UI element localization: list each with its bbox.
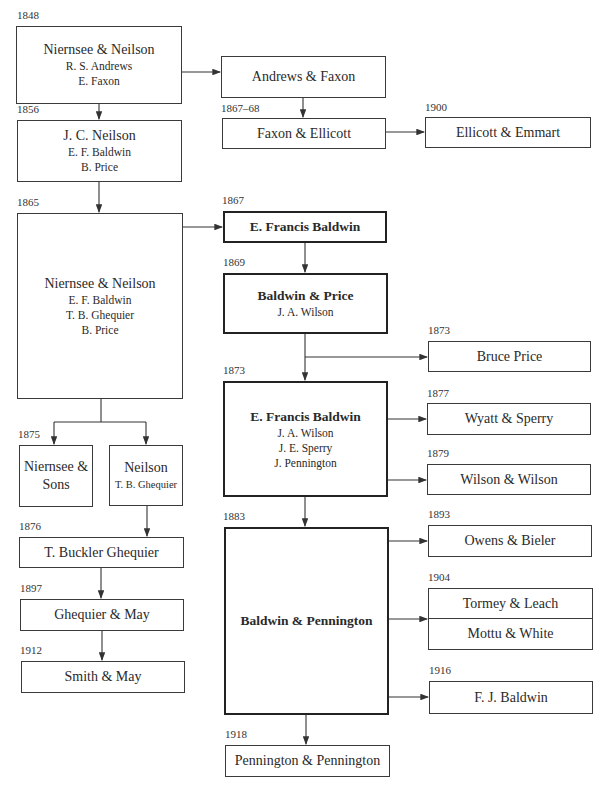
member: T. B. Ghequier <box>66 308 134 323</box>
year-label: 1883 <box>223 510 245 522</box>
node-title: E. Francis Baldwin <box>250 408 361 426</box>
member: E. Faxon <box>78 74 120 89</box>
node-title: T. Buckler Ghequier <box>44 544 158 562</box>
node-fj-baldwin: F. J. Baldwin <box>429 681 593 714</box>
node-title: Owens & Bieler <box>465 532 556 550</box>
member: J. E. Sperry <box>279 441 333 456</box>
node-title: Smith & May <box>64 668 141 686</box>
node-wyatt-sperry: Wyatt & Sperry <box>427 403 591 435</box>
node-title: J. C. Neilson <box>63 127 135 145</box>
node-title: Ghequier & May <box>54 606 150 624</box>
node-title-line: Sons <box>42 476 69 494</box>
node-title: F. J. Baldwin <box>474 689 548 707</box>
year-label: 1893 <box>428 508 450 520</box>
node-title: Faxon & Ellicott <box>257 125 351 143</box>
node-title: Baldwin & Pennington <box>240 612 372 630</box>
node-title: Niernsee & Neilson <box>43 41 154 59</box>
year-label: 1912 <box>20 644 42 656</box>
node-mottu-white: Mottu & White <box>429 619 592 649</box>
node-e-francis-baldwin-1873: E. Francis Baldwin J. A. Wilson J. E. Sp… <box>223 381 388 497</box>
year-label: 1900 <box>425 101 447 113</box>
node-ellicott-emmart: Ellicott & Emmart <box>425 117 591 148</box>
node-owens-bieler: Owens & Bieler <box>428 525 592 557</box>
node-title: Wyatt & Sperry <box>465 410 554 428</box>
year-label: 1848 <box>17 9 39 21</box>
year-label: 1856 <box>17 103 39 115</box>
member: B. Price <box>81 160 118 175</box>
node-smith-may: Smith & May <box>21 661 185 693</box>
node-jc-neilson: J. C. Neilson E. F. Baldwin B. Price <box>17 120 182 182</box>
node-baldwin-pennington: Baldwin & Pennington <box>224 527 389 715</box>
member: J. Pennington <box>274 456 337 471</box>
node-niernsee-neilson-1848: Niernsee & Neilson R. S. Andrews E. Faxo… <box>16 26 182 104</box>
node-ghequier-may: Ghequier & May <box>20 599 184 631</box>
year-label: 1865 <box>17 196 39 208</box>
year-label: 1879 <box>427 447 449 459</box>
member: B. Price <box>81 323 118 338</box>
year-label: 1916 <box>429 664 451 676</box>
member: R. S. Andrews <box>66 59 132 74</box>
member: J. A. Wilson <box>277 426 333 441</box>
node-title: E. Francis Baldwin <box>250 218 361 236</box>
year-label: 1875 <box>18 428 40 440</box>
year-label: 1873 <box>428 324 450 336</box>
node-andrews-faxon: Andrews & Faxon <box>221 56 386 98</box>
node-title-line: Niernsee & <box>24 458 88 476</box>
node-title: Baldwin & Price <box>258 287 354 305</box>
node-title: Neilson <box>124 459 168 477</box>
year-label: 1876 <box>19 520 41 532</box>
year-label: 1897 <box>20 582 42 594</box>
node-e-francis-baldwin-1867: E. Francis Baldwin <box>223 211 387 243</box>
node-title: Bruce Price <box>477 348 543 366</box>
node-title: Wilson & Wilson <box>460 471 557 489</box>
node-tormey-mottu: Tormey & Leach Mottu & White <box>428 588 593 650</box>
node-neilson-1875: Neilson T. B. Ghequier <box>109 445 183 506</box>
node-pennington-pennington: Pennington & Pennington <box>225 745 390 777</box>
member: J. A. Wilson <box>277 305 333 320</box>
node-title: Ellicott & Emmart <box>456 124 560 142</box>
year-label: 1867–68 <box>221 102 260 114</box>
node-title: Niernsee & Neilson <box>44 275 155 293</box>
node-faxon-ellicott: Faxon & Ellicott <box>222 118 386 149</box>
year-label: 1918 <box>225 728 247 740</box>
node-wilson-wilson: Wilson & Wilson <box>427 464 591 495</box>
year-label: 1877 <box>427 387 449 399</box>
node-tormey-leach: Tormey & Leach <box>429 589 592 619</box>
year-label: 1873 <box>223 364 245 376</box>
year-label: 1869 <box>223 256 245 268</box>
member: E. F. Baldwin <box>68 145 131 160</box>
node-baldwin-price: Baldwin & Price J. A. Wilson <box>223 273 388 334</box>
node-niernsee-neilson-1865: Niernsee & Neilson E. F. Baldwin T. B. G… <box>17 213 183 399</box>
member: T. B. Ghequier <box>115 477 177 492</box>
node-title: Pennington & Pennington <box>235 752 380 770</box>
node-t-buckler-ghequier: T. Buckler Ghequier <box>19 537 184 568</box>
year-label: 1904 <box>428 571 450 583</box>
member: E. F. Baldwin <box>69 293 132 308</box>
node-bruce-price: Bruce Price <box>428 341 591 372</box>
node-title: Andrews & Faxon <box>252 68 355 86</box>
node-niernsee-sons: Niernsee & Sons <box>19 445 93 507</box>
year-label: 1867 <box>222 194 244 206</box>
